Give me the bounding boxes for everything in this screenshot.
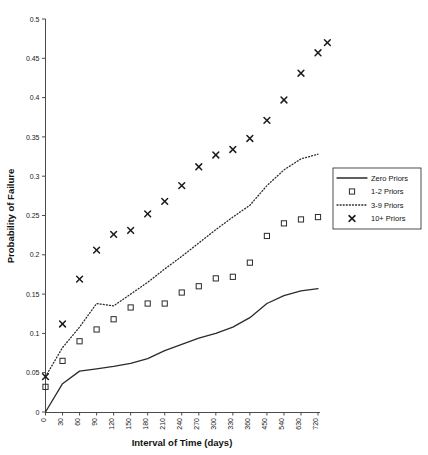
x-tick-label: 330	[227, 418, 234, 430]
y-tick-label: 0.3	[30, 173, 40, 180]
x-tick-label: 300	[210, 418, 217, 430]
y-tick-label: 0.15	[26, 291, 40, 298]
x-tick-label: 450	[261, 418, 268, 430]
probability-of-failure-chart: 00.050.10.150.20.250.30.350.40.450.5 030…	[0, 0, 428, 455]
y-tick-label: 0.45	[26, 55, 40, 62]
x-tick-label: 720	[312, 418, 319, 430]
x-tick-label: 540	[278, 418, 285, 430]
x-tick-label: 240	[176, 418, 183, 430]
x-tick-label: 630	[295, 418, 302, 430]
legend-item-label: 10+ Priors	[371, 214, 406, 223]
legend-item-label: 3-9 Priors	[371, 201, 404, 210]
y-tick-label: 0.35	[26, 134, 40, 141]
x-tick-label: 210	[159, 418, 166, 430]
y-tick-label: 0.05	[26, 369, 40, 376]
x-tick-label: 30	[57, 418, 64, 426]
x-tick-label: 180	[142, 418, 149, 430]
chart-canvas: 00.050.10.150.20.250.30.350.40.450.5 030…	[0, 0, 428, 455]
x-axis-title: Interval of Time (days)	[132, 437, 233, 448]
y-tick-label: 0.5	[30, 16, 40, 23]
y-axis-title: Probability of Failure	[5, 169, 16, 264]
y-tick-label: 0.2	[30, 251, 40, 258]
chart-legend: Zero Priors1-2 Priors3-9 Priors10+ Prior…	[333, 168, 421, 229]
y-tick-label: 0.25	[26, 212, 40, 219]
y-tick-label: 0	[36, 409, 40, 416]
y-tick-label: 0.4	[30, 94, 40, 101]
legend-item-label: Zero Priors	[371, 174, 408, 183]
x-tick-label: 120	[108, 418, 115, 430]
x-tick-label: 270	[193, 418, 200, 430]
x-tick-label: 150	[125, 418, 132, 430]
x-tick-label: 60	[74, 418, 81, 426]
legend-item-label: 1-2 Priors	[371, 187, 404, 196]
x-tick-label: 360	[244, 418, 251, 430]
x-tick-label: 90	[91, 418, 98, 426]
x-tick-label: 0	[40, 418, 47, 422]
y-tick-label: 0.1	[30, 330, 40, 337]
